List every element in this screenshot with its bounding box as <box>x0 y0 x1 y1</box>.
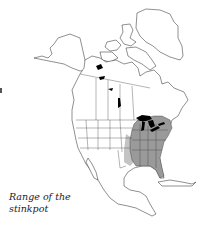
edge-mark <box>0 88 2 93</box>
cuba <box>158 180 196 186</box>
arctic-island <box>105 40 121 51</box>
caption-line-2: stinkpot <box>9 203 71 215</box>
arctic-island <box>120 24 136 46</box>
alaska <box>34 34 88 71</box>
caption-line-1: Range of the <box>9 191 71 203</box>
mainland <box>72 56 188 216</box>
map-caption: Range of the stinkpot <box>9 191 71 215</box>
